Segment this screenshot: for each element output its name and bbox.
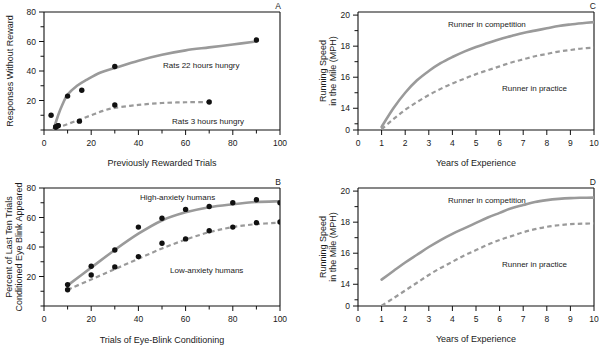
data-point [136, 254, 141, 259]
panel-letter: C [590, 1, 596, 11]
panel-c-chart: 141618200012345678910Runner in competiti… [306, 0, 612, 176]
y-tick-label: 60 [27, 213, 37, 223]
y-axis-title-line1: Running Speed [318, 216, 328, 278]
x-tick-label: 4 [450, 138, 455, 148]
series-annotation: Runner in competition [448, 196, 526, 205]
y-axis-title-line2: Conditioned Eye Blink Appeared [14, 182, 24, 311]
data-point [65, 93, 70, 98]
data-point [183, 207, 188, 212]
data-point [65, 287, 70, 292]
x-tick-label: 9 [568, 314, 573, 324]
data-point [254, 197, 259, 202]
data-point [254, 220, 259, 225]
x-tick-label: 9 [568, 138, 573, 148]
x-tick-label: 80 [228, 138, 238, 148]
panel-d-chart: 141618200012345678910Runner in competiti… [306, 176, 612, 353]
data-point [254, 37, 259, 42]
y-tick-label: 80 [27, 7, 37, 17]
series-group [382, 22, 594, 129]
series-annotation: Low-anxiety humans [170, 266, 243, 275]
y-axis-title: Running Speedin the Mile (MPH) [318, 36, 338, 106]
y-tick-label: 60 [27, 37, 37, 47]
x-tick-label: 100 [273, 138, 287, 148]
y-tick-label: 18 [341, 217, 351, 227]
x-tick-label: 60 [181, 314, 191, 324]
y-tick-label: 20 [341, 186, 351, 196]
y-axis-title-line1: Running Speed [318, 40, 328, 102]
y-axis-title: Running Speedin the Mile (MPH) [318, 212, 338, 282]
x-axis-title: Previously Rewarded Trials [107, 158, 217, 168]
y-tick-label: 14 [341, 279, 351, 289]
x-tick-label: 0 [356, 138, 361, 148]
data-point [112, 247, 117, 252]
data-point [112, 264, 117, 269]
series-annotation: Runner in competition [448, 20, 526, 29]
x-tick-label: 3 [426, 138, 431, 148]
x-tick-label: 5 [474, 314, 479, 324]
x-axis-title: Years of Experience [436, 158, 516, 168]
x-tick-label: 8 [544, 138, 549, 148]
x-tick-label: 1 [379, 138, 384, 148]
x-tick-label: 0 [42, 314, 47, 324]
data-point [230, 224, 235, 229]
y-axis-title-line2: in the Mile (MPH) [328, 212, 338, 282]
x-tick-label: 10 [589, 314, 599, 324]
x-tick-label: 8 [544, 314, 549, 324]
y-axis-title-line1: Percent of Last Ten Trials [4, 196, 14, 298]
x-tick-label: 6 [497, 314, 502, 324]
data-point [65, 282, 70, 287]
y-axis-title-line2: in the Mile (MPH) [328, 36, 338, 106]
x-tick-label: 4 [450, 314, 455, 324]
series-group [382, 198, 594, 306]
panel-letter: A [275, 1, 281, 11]
panel-d-running-speed-performance: 141618200012345678910Runner in competiti… [306, 176, 612, 353]
x-tick-label: 5 [474, 138, 479, 148]
data-point [183, 236, 188, 241]
series-annotation: High-anxiety humans [140, 193, 215, 202]
y-tick-label: 40 [27, 242, 37, 252]
data-point [277, 219, 282, 224]
data-point [230, 200, 235, 205]
x-tick-label: 20 [86, 314, 96, 324]
y-tick-label: 20 [341, 10, 351, 20]
data-point [89, 263, 94, 268]
series-group [65, 197, 283, 292]
data-point [207, 228, 212, 233]
x-axis-title: Trials of Eye-Blink Conditioning [100, 335, 225, 345]
y-axis-title-line1: Responses Without Reward [5, 15, 15, 127]
panel-letter: B [275, 177, 281, 187]
x-tick-label: 0 [42, 138, 47, 148]
x-tick-label: 1 [379, 314, 384, 324]
panel-letter: D [590, 177, 596, 187]
data-point [55, 123, 60, 128]
y-axis-zero-label: 0 [345, 125, 350, 135]
x-tick-label: 0 [356, 314, 361, 324]
data-point [159, 216, 164, 221]
x-tick-label: 40 [134, 138, 144, 148]
x-axis-title: Years of Experience [436, 334, 516, 344]
panel-a-chart: 20406080020406080100Rats 22 hours hungry… [0, 0, 306, 176]
series-annotation: Runner in practice [502, 84, 567, 93]
panel-a-responses-without-reward: 20406080020406080100Rats 22 hours hungry… [0, 0, 306, 176]
x-tick-label: 3 [426, 314, 431, 324]
x-tick-label: 2 [403, 314, 408, 324]
panel-c-running-speed-learning: 141618200012345678910Runner in competiti… [306, 0, 612, 176]
data-point [89, 272, 94, 277]
x-tick-label: 80 [228, 314, 238, 324]
series-curve-runner-in-competition [382, 22, 594, 127]
data-point [77, 118, 82, 123]
x-tick-label: 100 [273, 314, 287, 324]
panel-b-chart: 20406080020406080100High-anxiety humansL… [0, 176, 306, 353]
x-tick-label: 7 [521, 314, 526, 324]
y-tick-label: 16 [341, 248, 351, 258]
y-tick-label: 18 [341, 41, 351, 51]
data-point [207, 99, 212, 104]
y-tick-label: 80 [27, 183, 37, 193]
series-annotation: Rats 22 hours hungry [163, 61, 240, 70]
x-tick-label: 2 [403, 138, 408, 148]
series-annotation: Rats 3 hours hungry [172, 117, 244, 126]
y-tick-label: 20 [27, 96, 37, 106]
data-point [48, 113, 53, 118]
data-point [79, 87, 84, 92]
y-tick-label: 20 [27, 272, 37, 282]
